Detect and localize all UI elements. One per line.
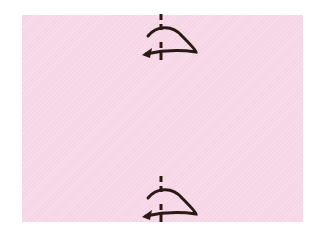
curved-arrow-icon	[138, 172, 202, 224]
turn-over-arrow-top	[138, 12, 202, 64]
curved-arrow-icon	[138, 12, 202, 64]
turn-over-arrow-bottom	[138, 172, 202, 224]
